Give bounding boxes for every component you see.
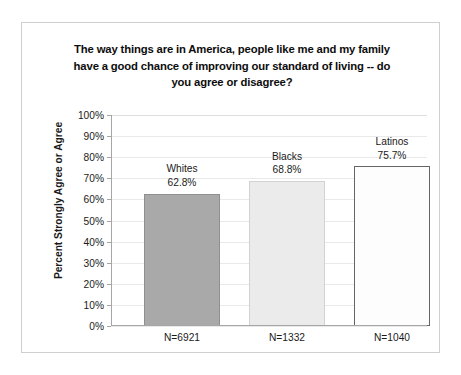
chart-frame: The way things are in America, people li…	[21, 22, 440, 353]
y-axis-tick	[107, 326, 111, 327]
y-axis-tick-label: 40%	[84, 236, 104, 247]
y-axis-tick-label: 50%	[84, 215, 104, 226]
plot-area: 100%90%80%70%60%50%40%30%20%10%0% Whites…	[111, 115, 427, 326]
chart-title: The way things are in America, people li…	[48, 41, 416, 91]
gridline-0%	[111, 326, 427, 327]
chart-title-line-3: you agree or disagree?	[48, 74, 416, 91]
y-axis-title: Percent Strongly Agree or Agree	[53, 101, 64, 301]
y-axis-tick-label: 30%	[84, 257, 104, 268]
y-axis-tick-label: 80%	[84, 152, 104, 163]
y-axis-tick-label: 90%	[84, 131, 104, 142]
y-axis-tick-label: 0%	[89, 321, 104, 332]
plot-axis-lines	[111, 115, 427, 326]
chart-title-line-1: The way things are in America, people li…	[48, 41, 416, 58]
chart-title-line-2: have a good chance of improving our stan…	[48, 58, 416, 75]
y-axis-tick-label: 60%	[84, 194, 104, 205]
x-axis-label-latinos: N=1040	[340, 332, 444, 343]
y-axis-tick-label: 70%	[84, 173, 104, 184]
x-axis-label-whites: N=6921	[130, 332, 234, 343]
y-axis-tick-label: 10%	[84, 299, 104, 310]
y-axis-tick-label: 20%	[84, 278, 104, 289]
x-axis-label-blacks: N=1332	[235, 332, 339, 343]
y-axis-tick-label: 100%	[78, 110, 104, 121]
